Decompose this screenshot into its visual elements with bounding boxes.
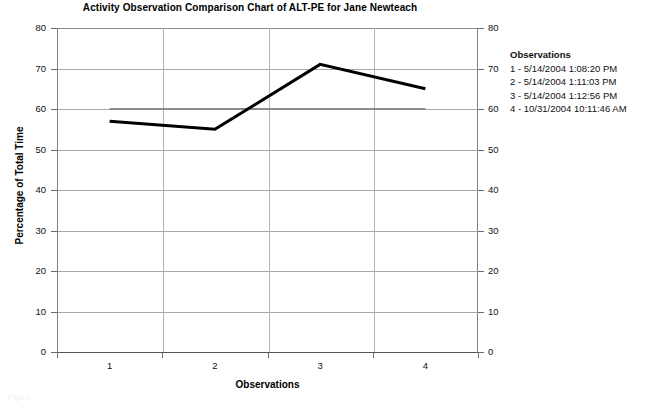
y-axis-tick-label-left: 50 [6, 144, 46, 155]
y-axis-tick-mark-left [51, 109, 57, 110]
gridline-vertical [269, 28, 270, 352]
y-axis-tick-label-left: 20 [6, 265, 46, 276]
y-axis-tick-mark-right [478, 271, 484, 272]
y-axis-tick-label-left: 30 [6, 225, 46, 236]
y-axis-tick-mark-right [478, 150, 484, 151]
x-axis-tick-mark [373, 352, 374, 358]
y-axis-tick-mark-right [478, 69, 484, 70]
y-axis-tick-mark-left [51, 190, 57, 191]
x-axis-tick-label: 3 [300, 360, 340, 371]
y-axis-tick-label-left: 0 [6, 346, 46, 357]
x-axis-title: Observations [57, 379, 478, 390]
x-axis-tick-mark [268, 352, 269, 358]
y-axis-tick-label-left: 80 [6, 22, 46, 33]
y-axis-tick-mark-right [478, 312, 484, 313]
x-axis-tick-label: 1 [90, 360, 130, 371]
y-axis-tick-label-left: 10 [6, 306, 46, 317]
y-axis-tick-mark-right [478, 190, 484, 191]
y-axis-tick-mark-left [51, 231, 57, 232]
y-axis-tick-label-right: 10 [488, 306, 528, 317]
y-axis-tick-label-left: 60 [6, 103, 46, 114]
plot-area [57, 28, 478, 352]
y-axis-tick-label-right: 40 [488, 184, 528, 195]
x-axis-tick-mark [478, 352, 479, 358]
y-axis-tick-mark-left [51, 150, 57, 151]
x-axis-tick-label: 2 [195, 360, 235, 371]
y-axis-tick-mark-left [51, 312, 57, 313]
y-axis-tick-label-left: 40 [6, 184, 46, 195]
y-axis-tick-label-right: 20 [488, 265, 528, 276]
y-axis-tick-label-right: 30 [488, 225, 528, 236]
y-axis-tick-mark-right [478, 109, 484, 110]
y-axis-tick-label-left: 70 [6, 63, 46, 74]
y-axis-tick-label-right: 50 [488, 144, 528, 155]
y-axis-tick-mark-left [51, 69, 57, 70]
y-axis-tick-mark-right [478, 28, 484, 29]
y-axis-tick-label-right: 0 [488, 346, 528, 357]
x-axis-tick-mark [162, 352, 163, 358]
y-axis-tick-mark-right [478, 231, 484, 232]
legend-entry: 4 - 10/31/2004 10:11:46 AM [510, 102, 627, 115]
gridline-horizontal [58, 352, 479, 353]
x-axis-tick-label: 4 [405, 360, 445, 371]
y-axis-tick-mark-left [51, 271, 57, 272]
legend-entry: 2 - 5/14/2004 1:11:03 PM [510, 75, 627, 88]
legend-entry: 1 - 5/14/2004 1:08:20 PM [510, 62, 627, 75]
legend-entry: 3 - 5/14/2004 1:12:56 PM [510, 89, 627, 102]
bottom-caption: Figure [8, 393, 31, 402]
x-axis-tick-mark [57, 352, 58, 358]
legend-title: Observations [510, 48, 627, 61]
chart-title: Activity Observation Comparison Chart of… [0, 2, 500, 13]
y-axis-tick-label-right: 80 [488, 22, 528, 33]
y-axis-tick-mark-left [51, 28, 57, 29]
gridline-vertical [163, 28, 164, 352]
gridline-vertical [374, 28, 375, 352]
chart-container: Activity Observation Comparison Chart of… [0, 0, 647, 402]
legend: Observations 1 - 5/14/2004 1:08:20 PM 2 … [510, 48, 627, 115]
